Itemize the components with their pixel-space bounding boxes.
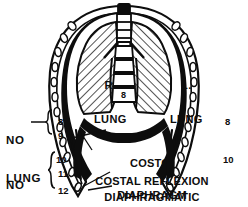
label-no-pleura-line1: NO [6,180,57,192]
label-costal-reflexion: COSTAL REFLEXION [89,176,215,187]
rib-number-right-8: 8 [225,117,230,127]
rib-number-left-9: 9 [58,131,63,141]
label-left-lung-line2: LUNG [170,114,203,125]
label-left-lung: L. LUNG [170,58,203,148]
figure-canvas: NO LUNG NO PLEURA R. LUNG L. LUNG COSTO-… [0,0,248,207]
rib-number-right-10: 10 [223,155,234,165]
rib-number-left-10: 10 [56,155,67,165]
vertebra-number-8: 8 [121,91,126,100]
label-recess-line1: COSTO- [97,158,207,169]
label-no-lung-line1: NO [6,135,41,147]
rib-number-left-12: 12 [58,186,69,196]
label-no-pleura: NO PLEURA [6,157,57,207]
rib-number-left-11: 11 [58,169,68,179]
rib-number-left-8: 8 [58,117,63,127]
label-right-lung: R. LUNG [94,58,127,148]
label-left-lung-line1: L. [170,80,203,91]
label-right-lung-line2: LUNG [94,114,127,125]
label-diaphragm: DIAPHRAGM [104,190,200,201]
